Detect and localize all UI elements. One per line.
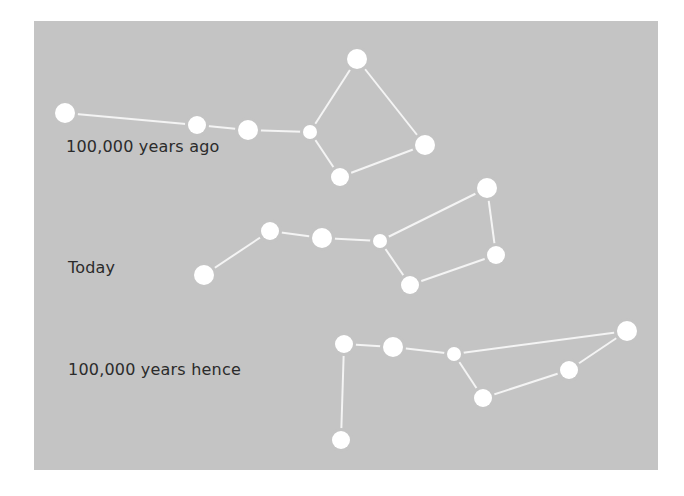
star-icon bbox=[487, 246, 505, 264]
constellation-line bbox=[357, 59, 425, 145]
constellation-line bbox=[380, 188, 487, 241]
star-icon bbox=[347, 49, 367, 69]
star-icon bbox=[401, 276, 419, 294]
star-icon bbox=[238, 120, 258, 140]
constellation-line bbox=[483, 370, 569, 398]
constellation-line bbox=[340, 145, 425, 177]
constellation-100000-years-hence bbox=[329, 318, 640, 452]
star-icon bbox=[335, 335, 353, 353]
constellation-diagram bbox=[0, 0, 684, 496]
constellation-100000-years-ago bbox=[52, 46, 438, 189]
star-icon bbox=[560, 361, 578, 379]
star-icon bbox=[303, 125, 317, 139]
constellation-line bbox=[410, 255, 496, 285]
label-today: Today bbox=[68, 260, 115, 276]
star-icon bbox=[188, 116, 206, 134]
star-icon bbox=[373, 234, 387, 248]
label-100000-years-hence: 100,000 years hence bbox=[68, 362, 241, 378]
label-100000-years-ago: 100,000 years ago bbox=[66, 139, 220, 155]
star-icon bbox=[617, 321, 637, 341]
constellation-line bbox=[341, 344, 344, 440]
star-icon bbox=[447, 347, 461, 361]
star-icon bbox=[474, 389, 492, 407]
star-icon bbox=[477, 178, 497, 198]
star-icon bbox=[331, 168, 349, 186]
star-icon bbox=[415, 135, 435, 155]
constellation-today bbox=[191, 175, 508, 297]
star-icon bbox=[332, 431, 350, 449]
constellation-line bbox=[310, 59, 357, 132]
star-icon bbox=[261, 222, 279, 240]
star-icon bbox=[383, 337, 403, 357]
star-icon bbox=[194, 265, 214, 285]
star-icon bbox=[312, 228, 332, 248]
constellation-line bbox=[454, 331, 627, 354]
star-icon bbox=[55, 103, 75, 123]
constellation-line bbox=[65, 113, 197, 125]
